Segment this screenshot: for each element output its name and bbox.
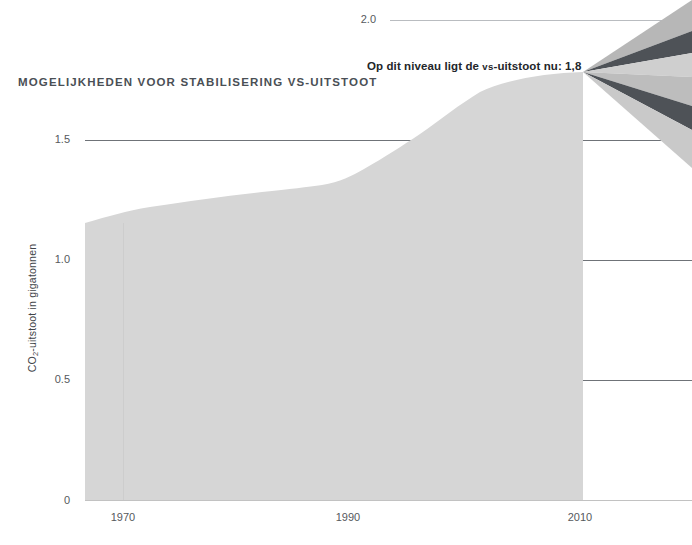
y-tick-label-0: 0 xyxy=(30,494,70,506)
current-level-annotation: Op dit niveau ligt de vs-uitstoot nu: 1,… xyxy=(367,60,581,72)
x-tick-label-1990: 1990 xyxy=(313,511,383,523)
page-title: MOGELIJKHEDEN VOOR STABILISERING VS-UITS… xyxy=(18,76,377,88)
y-tick-label-1-5: 1.5 xyxy=(30,133,70,145)
y-tick-label-2-0: 2.0 xyxy=(336,13,376,25)
annotation-text-after: -uitstoot nu: 1,8 xyxy=(493,60,581,72)
y-tick-label-0-5: 0.5 xyxy=(30,373,70,385)
y-axis-title-prefix: CO xyxy=(26,356,38,372)
annotation-text-before: Op dit niveau ligt de xyxy=(367,60,482,72)
y-axis-title-subscript: 2 xyxy=(31,352,40,356)
y-axis-title: CO2-uitstoot in gigatonnen xyxy=(26,228,38,388)
historical-emissions-area xyxy=(85,72,583,500)
chart-canvas: MOGELIJKHEDEN VOOR STABILISERING VS-UITS… xyxy=(0,0,692,545)
y-tick-label-1-0: 1.0 xyxy=(30,253,70,265)
x-tick-label-1970: 1970 xyxy=(88,511,158,523)
x-tick-label-2010: 2010 xyxy=(545,511,615,523)
annotation-text-small: vs xyxy=(482,61,493,72)
